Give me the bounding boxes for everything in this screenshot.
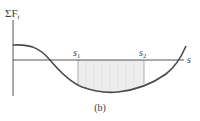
force-displacement-diagram: ΣFt s1 s2 s (b) <box>0 0 200 121</box>
figure-caption: (b) <box>94 102 106 114</box>
x-axis-label: s <box>187 54 191 65</box>
y-axis-label: ΣFt <box>5 7 21 21</box>
s2-label: s2 <box>139 47 146 59</box>
s1-label: s1 <box>73 47 80 59</box>
